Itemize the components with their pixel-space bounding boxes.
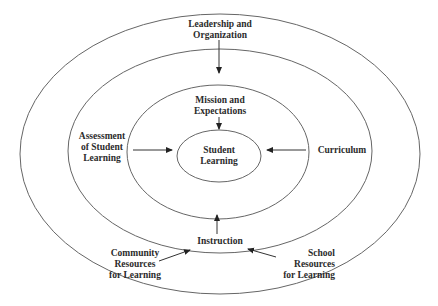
label-curriculum: Curriculum	[312, 145, 372, 156]
label-instruction: Instruction	[185, 236, 255, 247]
label-mission: Mission and Expectations	[170, 95, 270, 117]
label-leadership: Leadership and Organization	[170, 19, 270, 41]
label-assessment: Assessment of Student Learning	[70, 131, 134, 164]
label-student-learning: Student Learning	[184, 145, 254, 167]
label-school: School Resources for Learning	[265, 248, 335, 281]
label-community: Community Resources for Learning	[100, 248, 170, 281]
diagram-canvas: Leadership and Organization Mission and …	[0, 0, 438, 306]
